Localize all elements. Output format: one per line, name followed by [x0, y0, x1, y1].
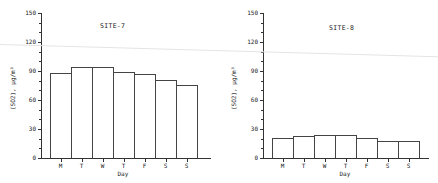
y-tick-label: 90	[240, 68, 258, 74]
y-axis	[263, 13, 264, 159]
x-tick-label: S	[383, 163, 393, 169]
y-minor-tick	[261, 119, 263, 120]
bar-2	[314, 135, 336, 158]
y-axis	[41, 13, 42, 159]
x-tick-label: F	[362, 163, 372, 169]
bar-4	[134, 74, 156, 158]
x-tick-label: S	[161, 163, 171, 169]
chart-title: SITE-7	[100, 22, 125, 30]
x-axis-title: Day	[340, 170, 351, 177]
x-axis	[41, 158, 211, 159]
y-tick-label: 0	[240, 155, 258, 161]
y-minor-tick	[261, 81, 263, 82]
x-axis-title: Day	[118, 170, 129, 177]
y-tick-label: 30	[240, 126, 258, 132]
x-tick-label: F	[140, 163, 150, 169]
bar-5	[377, 141, 399, 158]
bar-3	[113, 72, 135, 158]
x-tick-label: S	[404, 163, 414, 169]
x-tick-label: T	[299, 163, 309, 169]
y-minor-tick	[261, 148, 263, 149]
y-minor-tick	[39, 90, 41, 91]
y-tick	[38, 71, 41, 72]
y-tick	[260, 100, 263, 101]
y-minor-tick	[261, 110, 263, 111]
chart-site-8: 0306090120150MTWTFSSSITE-8Day(SO2), µg/m…	[219, 0, 438, 183]
bar-0	[50, 73, 72, 158]
y-minor-tick	[39, 148, 41, 149]
x-tick-label: T	[119, 163, 129, 169]
y-minor-tick	[261, 61, 263, 62]
y-minor-tick	[261, 139, 263, 140]
bar-5	[155, 80, 177, 158]
y-minor-tick	[39, 23, 41, 24]
y-axis-title: (SO2), µg/m³	[9, 67, 16, 110]
y-tick	[260, 129, 263, 130]
y-tick	[260, 42, 263, 43]
y-minor-tick	[39, 32, 41, 33]
y-tick	[260, 13, 263, 14]
chart-title: SITE-8	[329, 24, 354, 32]
bar-6	[398, 141, 420, 158]
y-tick-label: 120	[240, 39, 258, 45]
bar-1	[293, 136, 315, 158]
y-tick	[38, 129, 41, 130]
y-tick	[38, 13, 41, 14]
y-minor-tick	[39, 52, 41, 53]
y-tick	[260, 158, 263, 159]
y-minor-tick	[39, 110, 41, 111]
x-tick-label: T	[77, 163, 87, 169]
y-minor-tick	[39, 61, 41, 62]
bar-3	[335, 135, 357, 158]
y-tick-label: 0	[18, 155, 36, 161]
y-minor-tick	[261, 32, 263, 33]
bar-1	[71, 67, 93, 158]
y-tick-label: 60	[240, 97, 258, 103]
y-tick-label: 150	[18, 10, 36, 16]
y-axis-title: (SO2), µg/m³	[230, 67, 237, 110]
bar-0	[272, 138, 294, 158]
y-tick	[260, 71, 263, 72]
y-tick-label: 150	[240, 10, 258, 16]
x-tick-label: W	[320, 163, 330, 169]
x-tick-label: M	[56, 163, 66, 169]
bar-6	[176, 85, 198, 158]
x-tick-label: S	[182, 163, 192, 169]
x-tick-label: M	[278, 163, 288, 169]
y-minor-tick	[261, 23, 263, 24]
y-tick-label: 30	[18, 126, 36, 132]
bar-2	[92, 67, 114, 158]
y-tick-label: 90	[18, 68, 36, 74]
y-tick-label: 60	[18, 97, 36, 103]
y-tick	[38, 158, 41, 159]
x-tick-label: T	[341, 163, 351, 169]
bar-4	[356, 138, 378, 158]
y-tick	[38, 42, 41, 43]
y-minor-tick	[39, 139, 41, 140]
y-minor-tick	[261, 90, 263, 91]
chart-site-7: 0306090120150MTWTFSSSITE-7Day(SO2), µg/m…	[0, 0, 219, 183]
x-tick-label: W	[98, 163, 108, 169]
y-minor-tick	[39, 119, 41, 120]
y-tick	[38, 100, 41, 101]
y-minor-tick	[39, 81, 41, 82]
